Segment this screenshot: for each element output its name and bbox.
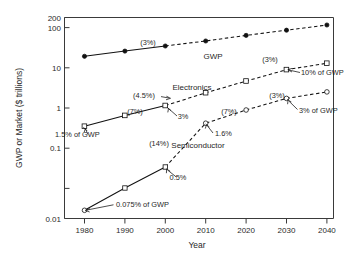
y-tick-label-1: 1 xyxy=(57,104,62,113)
y-tick-label-10: 10 xyxy=(52,64,61,73)
semiconductor-point-1990 xyxy=(123,186,127,190)
gwp-point-2000 xyxy=(163,44,167,48)
gwp-point-2030 xyxy=(284,28,288,32)
semiconductor-series-label: Semiconductor xyxy=(171,141,225,150)
y-tick-label-0.01: 0.01 xyxy=(45,215,61,224)
gwp-point-2040 xyxy=(325,23,329,27)
electronics-series-label: Electronics xyxy=(172,83,211,92)
semiconductor-point-2010 xyxy=(203,121,208,126)
annotation-electronics-2030-share: 10% of GWP xyxy=(301,68,344,77)
electronics-point-2000 xyxy=(163,103,168,108)
leader-semi-2010 xyxy=(207,125,213,133)
gwp-point-1990 xyxy=(123,49,127,53)
y-axis-title: GWP or Market ($ trillions) xyxy=(14,68,24,168)
x-tick-label-2030: 2030 xyxy=(278,226,296,235)
gwp-point-1980 xyxy=(82,54,86,58)
gwp-point-2020 xyxy=(244,33,248,37)
x-axis-tick-labels: 1980 1990 2000 2010 2020 2030 2040 xyxy=(76,226,337,235)
annotations: (3%) GWP Electronics 1.5% of GWP (7%) 3%… xyxy=(55,38,344,209)
y-axis-tick-labels: 200 100 10 1 0.1 0.01 xyxy=(45,14,61,224)
x-tick-label-2010: 2010 xyxy=(197,226,215,235)
leader-semi-2030 xyxy=(289,101,298,110)
annotation-semiconductor-growth-early: (14%) xyxy=(149,139,169,148)
x-tick-label-1990: 1990 xyxy=(116,226,134,235)
y-axis-ticks xyxy=(65,18,70,219)
annotation-electronics-growth-early: (7%) xyxy=(127,107,143,116)
gwp-point-2010 xyxy=(204,39,208,43)
x-axis-ticks xyxy=(85,219,327,224)
chart-figure: 200 100 10 1 0.1 0.01 1980 1990 2000 201… xyxy=(0,0,347,264)
annotation-semiconductor-growth-mid: (7%) xyxy=(221,107,237,116)
x-tick-label-2020: 2020 xyxy=(237,226,255,235)
electronics-point-2020 xyxy=(244,79,249,84)
x-tick-label-2040: 2040 xyxy=(318,226,336,235)
annotation-semiconductor-1980-share: 0.075% of GWP xyxy=(116,200,169,209)
x-tick-label-1980: 1980 xyxy=(76,226,94,235)
y-tick-label-100: 100 xyxy=(48,24,62,33)
y-tick-label-0.1: 0.1 xyxy=(50,144,62,153)
semiconductor-point-2000 xyxy=(163,165,167,169)
semiconductor-line-dashed xyxy=(165,92,327,167)
semiconductor-point-2040 xyxy=(325,90,330,95)
annotation-electronics-growth-mid: (4.5%) xyxy=(133,91,155,100)
leader-semi-1980 xyxy=(87,205,114,210)
annotation-semiconductor-2000-share: 0.5% xyxy=(170,173,187,182)
annotation-electronics-2000-share: 3% xyxy=(178,112,189,121)
series-semiconductor xyxy=(82,90,329,213)
annotation-semiconductor-2010-share: 1.6% xyxy=(215,129,232,138)
plot-frame xyxy=(65,18,334,219)
chart-canvas: 200 100 10 1 0.1 0.01 1980 1990 2000 201… xyxy=(0,0,347,264)
annotation-gwp-growth-rate: (3%) xyxy=(140,38,156,47)
gwp-series-label: GWP xyxy=(203,52,222,61)
semiconductor-point-2020 xyxy=(244,108,249,113)
leader-arrowhead-elec-2000 xyxy=(167,107,171,112)
y-tick-label-200: 200 xyxy=(48,14,62,23)
x-tick-label-2000: 2000 xyxy=(156,226,174,235)
annotation-semiconductor-growth-late: (3%) xyxy=(269,91,285,100)
annotation-electronics-1980-share: 1.5% of GWP xyxy=(55,130,100,139)
annotation-electronics-growth-late: (3%) xyxy=(262,55,278,64)
annotation-semiconductor-2030-share: 3% of GWP xyxy=(299,106,338,115)
x-axis-title: Year xyxy=(188,240,205,250)
electronics-point-2040 xyxy=(325,61,330,66)
